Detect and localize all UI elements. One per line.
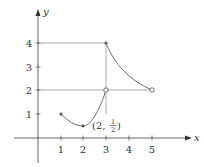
x-axis-arrow-icon bbox=[185, 136, 192, 141]
filled-point-2-half bbox=[82, 125, 85, 128]
filled-point-3-4 bbox=[104, 41, 107, 44]
xtick-label-2: 2 bbox=[80, 144, 86, 155]
annotation-open: (2, bbox=[92, 120, 105, 131]
annotation-close: ) bbox=[117, 120, 121, 131]
xtick-label-1: 1 bbox=[58, 144, 64, 155]
curve-piece-2 bbox=[106, 43, 152, 90]
annotation-denominator: 2 bbox=[111, 126, 115, 134]
x-axis-label: x bbox=[194, 132, 200, 143]
filled-point-1-1 bbox=[59, 112, 62, 115]
xtick-label-5: 5 bbox=[149, 144, 155, 155]
xtick-label-3: 3 bbox=[103, 144, 109, 155]
xtick-label-4: 4 bbox=[126, 144, 132, 155]
open-point-5-2 bbox=[150, 88, 154, 92]
piecewise-function-chart: 1 2 3 4 5 4 3 2 1 x y (2, 1 2 ) bbox=[0, 0, 204, 167]
y-axis-label: y bbox=[42, 6, 49, 17]
ytick-label-4: 4 bbox=[26, 38, 32, 49]
ytick-label-1: 1 bbox=[26, 109, 32, 120]
annotation-min-point: (2, 1 2 ) bbox=[92, 118, 121, 134]
ytick-label-2: 2 bbox=[26, 85, 32, 96]
y-axis-arrow-icon bbox=[36, 9, 41, 16]
open-point-3-2 bbox=[104, 88, 108, 92]
ytick-label-3: 3 bbox=[26, 62, 32, 73]
